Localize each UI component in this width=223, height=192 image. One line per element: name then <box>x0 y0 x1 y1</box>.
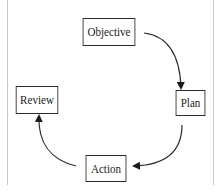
node-action: Action <box>86 155 127 182</box>
node-objective: Objective <box>83 18 136 46</box>
node-plan-label: Plan <box>181 95 201 111</box>
arrow-action-to-review <box>39 116 76 166</box>
node-review-label: Review <box>20 92 54 108</box>
node-review: Review <box>16 86 59 114</box>
arrow-objective-to-plan <box>144 33 181 88</box>
arrow-plan-to-action <box>134 125 182 166</box>
node-plan: Plan <box>176 90 206 116</box>
node-action-label: Action <box>91 161 121 177</box>
node-objective-label: Objective <box>88 24 131 40</box>
